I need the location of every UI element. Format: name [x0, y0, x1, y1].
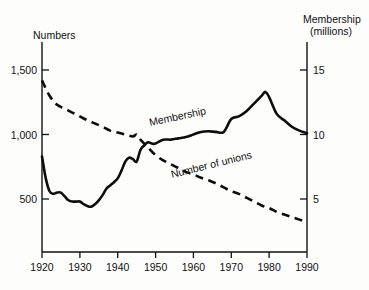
chart-container: Numbers Membership (millions) 1,500 1,00… — [0, 0, 369, 290]
x-tick-label-1940: 1940 — [106, 261, 130, 273]
x-tick-label-1980: 1980 — [257, 261, 281, 273]
right-tick-label-15: 15 — [313, 64, 325, 76]
right-tick-label-5: 5 — [313, 193, 319, 205]
series-annotation-membership: Membership — [148, 104, 207, 128]
x-tick-label-1920: 1920 — [30, 261, 54, 273]
line-chart: Numbers Membership (millions) 1,500 1,00… — [0, 0, 369, 290]
x-tick-label-1970: 1970 — [220, 261, 244, 273]
x-tick-label-1990: 1990 — [295, 261, 319, 273]
x-tick-label-1960: 1960 — [182, 261, 206, 273]
left-axis-title: Numbers — [33, 29, 76, 41]
x-tick-label-1930: 1930 — [68, 261, 92, 273]
left-tick-label-1000: 1,000 — [11, 129, 37, 141]
left-tick-label-500: 500 — [19, 193, 37, 205]
left-tick-label-1500: 1,500 — [11, 64, 37, 76]
series-annotation-number-of-unions: Number of unions — [170, 148, 253, 180]
series-line-membership — [42, 92, 307, 207]
series-line-number-of-unions — [42, 80, 307, 222]
right-axis-title-line2: (millions) — [310, 25, 352, 37]
right-tick-label-10: 10 — [313, 129, 325, 141]
x-tick-label-1950: 1950 — [144, 261, 168, 273]
right-axis-title-line1: Membership — [303, 13, 361, 25]
